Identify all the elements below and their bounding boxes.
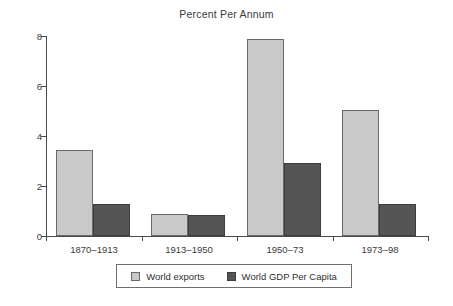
legend-label-world-exports: World exports — [146, 271, 204, 282]
x-tick-mark — [428, 236, 429, 241]
legend-swatch-icon-world-gdp-per-capita — [227, 272, 236, 281]
bar — [284, 163, 321, 236]
y-tick-label: 2 — [37, 181, 42, 192]
legend-swatch-icon-world-exports — [131, 272, 140, 281]
x-tick-mark — [46, 236, 47, 241]
x-tick-mark — [237, 236, 238, 241]
chart-title: Percent Per Annum — [0, 8, 453, 20]
x-axis-label-0: 1870–1913 — [70, 244, 118, 255]
x-axis-label-3: 1973–98 — [362, 244, 399, 255]
bar — [247, 39, 284, 236]
bar — [188, 215, 225, 236]
bar — [56, 150, 93, 236]
chart-figure: Percent Per Annum 02468 1870–19131913–19… — [0, 0, 453, 306]
x-axis-label-2: 1950–73 — [267, 244, 304, 255]
y-axis-line — [46, 36, 47, 236]
y-tick-label: 4 — [37, 131, 42, 142]
y-tick-label: 8 — [37, 31, 42, 42]
bar — [93, 204, 130, 236]
bar — [342, 110, 379, 236]
legend-entry-world-gdp-per-capita: World GDP Per Capita — [227, 271, 337, 282]
plot-area: 02468 1870–19131913–19501950–731973–98 — [46, 32, 428, 236]
chart-legend: World exports World GDP Per Capita — [116, 264, 352, 288]
x-tick-mark — [142, 236, 143, 241]
x-axis-label-1: 1913–1950 — [165, 244, 213, 255]
legend-label-world-gdp-per-capita: World GDP Per Capita — [242, 271, 337, 282]
bar — [151, 214, 188, 236]
bar — [379, 204, 416, 236]
x-tick-mark — [333, 236, 334, 241]
y-tick-label: 0 — [37, 231, 42, 242]
legend-entry-world-exports: World exports — [131, 271, 204, 282]
y-tick-label: 6 — [37, 81, 42, 92]
